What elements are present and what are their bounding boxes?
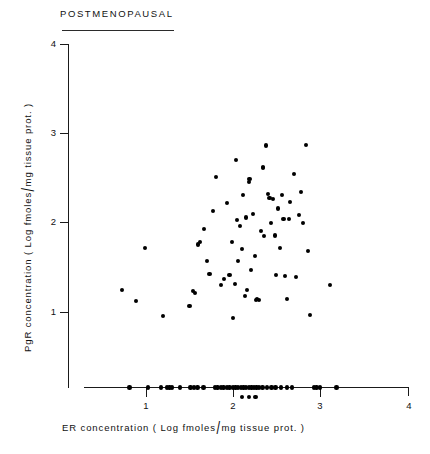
data-point [276,206,280,210]
rug-mark-overflow [240,395,244,399]
rug-mark [195,385,199,389]
data-point [257,298,261,302]
rug-mark [285,385,289,389]
data-point [243,294,247,298]
rug-mark [146,385,150,389]
data-point [304,143,308,147]
data-point [251,212,255,216]
data-point [225,201,229,205]
data-point [301,221,305,225]
data-point [240,247,244,251]
data-point [241,193,245,197]
data-point [262,234,266,238]
data-point [269,221,273,225]
data-point [261,166,265,170]
scatter-plot-figure: POSTMENOPAUSAL 4 3 2 1 1 2 3 4 PgR conce… [0,0,430,454]
data-point [299,190,303,194]
data-point [247,177,251,181]
data-point [273,233,277,237]
data-point [274,273,278,277]
data-point [234,158,238,162]
data-point [198,240,202,244]
rug-mark [273,385,277,389]
rug-mark [159,385,163,389]
data-point [238,224,242,228]
data-point [287,217,291,221]
rug-mark [170,385,174,389]
data-point [285,297,289,301]
data-point [205,259,209,263]
data-point [202,227,206,231]
data-point [278,246,282,250]
data-point [187,304,191,308]
data-point [231,316,235,320]
data-point [219,283,223,287]
data-point [283,274,287,278]
data-point [292,172,296,176]
data-point [233,282,237,286]
data-point [120,288,124,292]
data-point [244,215,248,219]
data-point [247,180,251,184]
data-point [297,213,301,217]
data-point [161,314,165,318]
data-point [235,218,239,222]
data-point [253,254,257,258]
plot-area [0,0,430,454]
data-point [222,277,226,281]
data-point [294,275,298,279]
data-point [271,197,275,201]
data-point [227,273,231,277]
rug-mark [279,385,283,389]
data-point [134,299,138,303]
data-point [328,283,332,287]
data-point [308,313,312,317]
rug-mark-overflow [253,395,257,399]
rug-mark [334,385,338,389]
data-point [143,246,147,250]
data-point [193,291,197,295]
data-point [230,240,234,244]
rug-mark-overflow [247,395,251,399]
data-point [236,259,240,263]
rug-mark [290,385,294,389]
data-point [264,143,268,147]
rug-mark [127,385,131,389]
data-point [259,229,263,233]
data-point [245,288,249,292]
data-point [281,217,285,221]
data-point [211,209,215,213]
data-point [249,268,253,272]
data-point [214,175,218,179]
data-point [207,272,211,276]
data-point [280,193,284,197]
rug-mark [318,385,322,389]
rug-mark [201,385,205,389]
data-point [306,249,310,253]
rug-mark [178,385,182,389]
data-point [288,200,292,204]
